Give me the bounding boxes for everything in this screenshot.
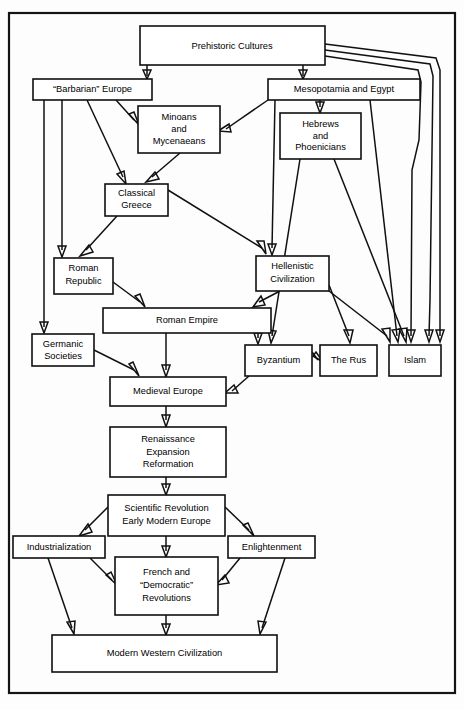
node-label-line1: Germanic bbox=[43, 339, 84, 349]
node-the-rus[interactable]: The Rus bbox=[320, 345, 377, 376]
edge-hebrews-to-byzantium bbox=[272, 159, 300, 336]
node-modern-western-civilization[interactable]: Modern Western Civilization bbox=[52, 635, 277, 672]
node-label-line2: Expansion bbox=[146, 447, 189, 457]
node-enlightenment[interactable]: Enlightenment bbox=[228, 536, 315, 558]
edge-classical-greece-to-hellenistic bbox=[168, 190, 262, 248]
node-label-line1: Minoans bbox=[161, 112, 196, 122]
edge-hebrews-to-islam bbox=[334, 159, 404, 336]
node-label-line1: Hebrews bbox=[302, 119, 339, 129]
node-label-line1: Roman bbox=[69, 263, 99, 273]
flowchart-canvas: Prehistoric Cultures “Barbarian” Europe … bbox=[0, 0, 464, 709]
node-label-line1: Scientific Revolution bbox=[124, 502, 208, 513]
node-label-line1: Renaissance bbox=[141, 434, 195, 444]
node-label: Medieval Europe bbox=[133, 386, 203, 396]
edge-enlightenment-to-french-revolutions bbox=[222, 558, 240, 580]
node-label-line2: Societies bbox=[44, 351, 82, 361]
edge-germanic-to-medieval-europe bbox=[94, 350, 134, 370]
node-label: “Barbarian” Europe bbox=[53, 84, 132, 94]
node-renaissance-expansion-reformation[interactable]: Renaissance Expansion Reformation bbox=[110, 427, 226, 477]
edge-industrialization-to-modern-western bbox=[48, 558, 72, 628]
node-label-line1: French and bbox=[143, 567, 190, 577]
edge-classical-greece-to-roman-republic bbox=[86, 216, 117, 250]
node-label-line1: Classical bbox=[118, 188, 155, 198]
node-label: Islam bbox=[404, 355, 426, 365]
edge-roman-republic-to-roman-empire bbox=[113, 282, 140, 302]
node-roman-empire[interactable]: Roman Empire bbox=[103, 308, 271, 333]
edge-arrowhead bbox=[225, 385, 238, 393]
edge-arrowhead bbox=[135, 294, 145, 307]
node-label: Enlightenment bbox=[242, 542, 302, 552]
edge-mesopotamia-to-hellenistic bbox=[272, 100, 275, 248]
node-label-line2: Republic bbox=[65, 276, 102, 286]
node-islam[interactable]: Islam bbox=[389, 345, 441, 376]
node-label-line3: Phoenicians bbox=[295, 142, 346, 152]
node-hebrews-and-phoenicians[interactable]: Hebrews and Phoenicians bbox=[280, 113, 361, 159]
node-label-line2: “Democratic” bbox=[140, 580, 193, 590]
node-french-and-democratic-revolutions[interactable]: French and “Democratic” Revolutions bbox=[115, 557, 218, 615]
node-label-line3: Revolutions bbox=[142, 593, 191, 603]
flowchart-diagram: Prehistoric Cultures “Barbarian” Europe … bbox=[0, 0, 464, 709]
node-label: Industrialization bbox=[27, 542, 92, 552]
edge-arrowhead bbox=[344, 330, 353, 343]
edge-byzantium-to-medieval-europe bbox=[232, 376, 249, 391]
edge-hellenistic-to-islam bbox=[329, 291, 387, 336]
node-scientific-revolution-early-modern-europe[interactable]: Scientific Revolution Early Modern Europ… bbox=[108, 495, 225, 536]
node-byzantium[interactable]: Byzantium bbox=[245, 345, 312, 376]
node-label: The Rus bbox=[331, 355, 366, 365]
edge-arrowhead bbox=[399, 328, 407, 342]
edge-arrowhead bbox=[257, 241, 266, 254]
node-minoans-and-mycenaeans[interactable]: Minoans and Mycenaeans bbox=[138, 106, 220, 153]
node-mesopotamia-and-egypt[interactable]: Mesopotamia and Egypt bbox=[268, 79, 420, 100]
node-label: Byzantium bbox=[257, 355, 301, 365]
node-label-line3: Mycenaeans bbox=[153, 136, 206, 146]
node-medieval-europe[interactable]: Medieval Europe bbox=[110, 377, 226, 406]
node-label-line2: and bbox=[171, 124, 187, 134]
edge-arrowhead bbox=[382, 328, 390, 342]
node-label-line2: Civilization bbox=[270, 274, 314, 284]
node-roman-republic[interactable]: Roman Republic bbox=[54, 258, 113, 294]
edge-barbarian-to-classical-greece bbox=[87, 100, 123, 177]
node-label: Roman Empire bbox=[156, 315, 218, 325]
node-prehistoric-cultures[interactable]: Prehistoric Cultures bbox=[140, 26, 325, 65]
node-industrialization[interactable]: Industrialization bbox=[13, 536, 105, 558]
edge-arrowhead bbox=[80, 245, 93, 256]
node-label: Modern Western Civilization bbox=[107, 648, 223, 658]
node-label-line2: Greece bbox=[121, 200, 152, 210]
node-classical-greece[interactable]: Classical Greece bbox=[105, 184, 168, 216]
node-layer: Prehistoric Cultures “Barbarian” Europe … bbox=[13, 26, 441, 672]
node-label: Mesopotamia and Egypt bbox=[294, 84, 395, 94]
edge-enlightenment-to-modern-western bbox=[262, 558, 285, 628]
edge-mesopotamia-to-minoans bbox=[226, 100, 268, 129]
node-label-line3: Reformation bbox=[143, 459, 194, 469]
edge-arrowhead bbox=[243, 523, 254, 536]
node-barbarian-europe[interactable]: “Barbarian” Europe bbox=[33, 79, 152, 100]
edge-mesopotamia-to-islam bbox=[370, 100, 397, 336]
node-label: Prehistoric Cultures bbox=[191, 41, 272, 51]
node-label-line2: Early Modern Europe bbox=[122, 515, 211, 526]
node-label-line1: Hellenistic bbox=[271, 261, 314, 271]
node-hellenistic-civilization[interactable]: Hellenistic Civilization bbox=[256, 256, 329, 291]
node-label-line2: and bbox=[313, 131, 329, 141]
node-germanic-societies[interactable]: Germanic Societies bbox=[32, 334, 94, 366]
